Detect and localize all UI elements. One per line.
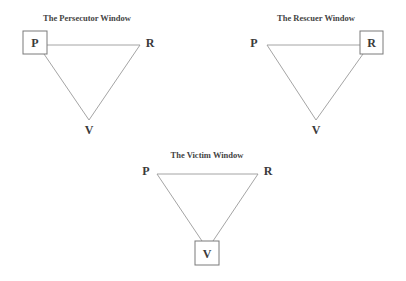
node-label-v: V bbox=[203, 247, 212, 261]
node-label-r: R bbox=[264, 164, 273, 178]
node-label-v: V bbox=[312, 123, 321, 137]
node-label-v: V bbox=[85, 123, 94, 137]
drama-triangle-diagram: The Persecutor Window P R V The Rescuer … bbox=[0, 0, 406, 281]
rescuer-window-panel: The Rescuer Window P R V bbox=[250, 13, 383, 137]
node-label-p: P bbox=[31, 36, 38, 50]
edge-r-v bbox=[316, 54, 363, 120]
persecutor-window-panel: The Persecutor Window P R V bbox=[23, 13, 155, 137]
node-label-r: R bbox=[146, 36, 155, 50]
rescuer-window-title: The Rescuer Window bbox=[277, 13, 356, 23]
persecutor-window-title: The Persecutor Window bbox=[43, 13, 132, 23]
node-label-r: R bbox=[367, 36, 376, 50]
victim-window-panel: The Victim Window P R V bbox=[142, 150, 272, 265]
edge-p-v bbox=[157, 174, 202, 241]
edge-r-v bbox=[89, 45, 140, 120]
edge-p-v bbox=[44, 54, 89, 120]
victim-window-title: The Victim Window bbox=[171, 150, 245, 160]
edge-p-v bbox=[267, 45, 316, 120]
node-label-p: P bbox=[142, 164, 149, 178]
edge-r-v bbox=[213, 174, 258, 241]
node-label-p: P bbox=[250, 36, 257, 50]
